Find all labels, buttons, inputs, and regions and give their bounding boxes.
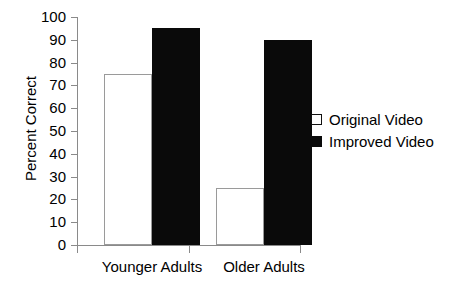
y-axis-tick xyxy=(71,17,78,18)
y-axis-tick xyxy=(71,40,78,41)
bar-chart: Percent Correct 0102030405060708090100 Y… xyxy=(0,0,454,298)
y-axis-tick xyxy=(71,131,78,132)
y-axis-tick-label-wrap: 40 xyxy=(20,154,66,155)
y-axis-tick xyxy=(71,85,78,86)
y-axis-tick-label-wrap: 70 xyxy=(20,85,66,86)
open-square-icon xyxy=(311,114,322,125)
y-axis-tick-label: 70 xyxy=(20,77,66,92)
bar xyxy=(104,74,152,245)
bar xyxy=(264,40,312,245)
y-axis-tick xyxy=(71,154,78,155)
chart-legend: Original Video Improved Video xyxy=(311,108,434,152)
y-axis-tick-label-wrap: 100 xyxy=(20,17,66,18)
legend-label-improved-video: Improved Video xyxy=(329,134,434,149)
x-axis-tick-start xyxy=(77,246,78,253)
y-axis-tick xyxy=(71,177,78,178)
legend-item-improved-video: Improved Video xyxy=(311,130,434,152)
bar xyxy=(152,28,200,245)
y-axis-tick-label: 20 xyxy=(20,191,66,206)
x-axis-label: Older Adults xyxy=(184,258,344,276)
y-axis-tick-label: 90 xyxy=(20,32,66,47)
y-axis-tick xyxy=(71,222,78,223)
y-axis-tick-label-wrap: 10 xyxy=(20,222,66,223)
y-axis-tick-label: 40 xyxy=(20,146,66,161)
x-axis-tick-end xyxy=(300,246,301,253)
y-axis-tick-label-wrap: 80 xyxy=(20,63,66,64)
y-axis-tick-label: 30 xyxy=(20,169,66,184)
y-axis-tick xyxy=(71,108,78,109)
y-axis-tick-label-wrap: 20 xyxy=(20,199,66,200)
y-axis-tick-label-wrap: 90 xyxy=(20,40,66,41)
y-axis-tick-label-wrap: 50 xyxy=(20,131,66,132)
y-axis-tick xyxy=(71,199,78,200)
y-axis-tick-label: 100 xyxy=(20,9,66,24)
y-axis-tick-label-wrap: 0 xyxy=(20,245,66,246)
legend-item-original-video: Original Video xyxy=(311,108,434,130)
y-axis-tick-label: 0 xyxy=(20,237,66,252)
y-axis-tick-label: 60 xyxy=(20,100,66,115)
y-axis-tick-label: 50 xyxy=(20,123,66,138)
filled-square-icon xyxy=(311,136,322,147)
y-axis-tick-label-wrap: 30 xyxy=(20,177,66,178)
y-axis-tick xyxy=(71,63,78,64)
y-axis-tick-label: 10 xyxy=(20,214,66,229)
x-axis-tick-divider xyxy=(189,246,190,253)
y-axis-tick-label-wrap: 60 xyxy=(20,108,66,109)
y-axis-tick-label: 80 xyxy=(20,55,66,70)
bar xyxy=(216,188,264,245)
legend-label-original-video: Original Video xyxy=(329,112,423,127)
